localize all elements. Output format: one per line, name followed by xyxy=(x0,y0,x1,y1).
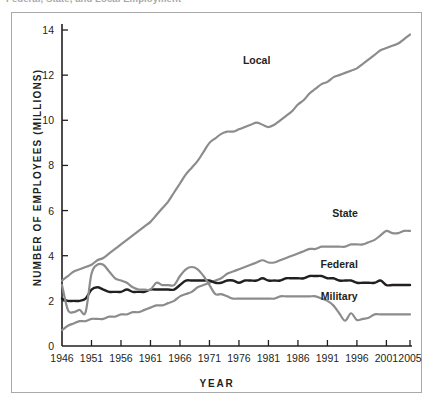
y-tick-label: 12 xyxy=(42,69,54,81)
series-label-military: Military xyxy=(321,290,358,302)
x-tick-label: 1991 xyxy=(316,352,340,364)
x-tick-label: 1976 xyxy=(227,352,251,364)
chart-plot-area: 0246810121419461951195619611966197119761… xyxy=(0,0,434,408)
x-tick-label: 2001 xyxy=(375,352,399,364)
y-axis-title: NUMBER OF EMPLOYEES (MILLIONS) xyxy=(32,63,43,293)
chart-page: Federal, State, and Local Employment 024… xyxy=(0,0,434,408)
x-tick-label: 1946 xyxy=(50,352,74,364)
y-tick-label: 4 xyxy=(48,250,54,262)
series-label-state: State xyxy=(332,207,358,219)
y-tick-label: 14 xyxy=(42,24,54,36)
x-tick-label: 1961 xyxy=(139,352,163,364)
x-tick-label: 1986 xyxy=(286,352,310,364)
series-line-federal xyxy=(62,276,410,301)
series-label-local: Local xyxy=(243,54,271,66)
series-label-federal: Federal xyxy=(321,258,358,270)
x-tick-label: 1956 xyxy=(109,352,133,364)
y-tick-label: 8 xyxy=(48,159,54,171)
x-tick-label: 1951 xyxy=(80,352,104,364)
x-tick-label: 2005 xyxy=(398,352,422,364)
x-tick-label: 1971 xyxy=(198,352,222,364)
y-tick-label: 2 xyxy=(48,295,54,307)
x-tick-label: 1966 xyxy=(168,352,192,364)
y-tick-label: 6 xyxy=(48,205,54,217)
y-tick-label: 0 xyxy=(48,340,54,352)
line-chart-svg: 0246810121419461951195619611966197119761… xyxy=(0,0,434,408)
x-tick-label: 1981 xyxy=(257,352,281,364)
x-tick-label: 1996 xyxy=(345,352,369,364)
x-axis-title: YEAR xyxy=(0,378,434,389)
y-tick-label: 10 xyxy=(42,114,54,126)
